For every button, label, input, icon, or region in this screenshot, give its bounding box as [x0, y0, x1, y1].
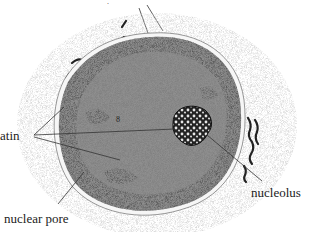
label-nucleolus: nucleolus — [251, 186, 301, 199]
nucleus-diagram: . — [0, 0, 314, 232]
label-nuclear-pore: nuclear pore — [4, 212, 69, 225]
label-chromatin: atin — [0, 129, 20, 142]
svg-text:.: . — [107, 0, 109, 6]
small-mark: 8 — [116, 115, 120, 124]
